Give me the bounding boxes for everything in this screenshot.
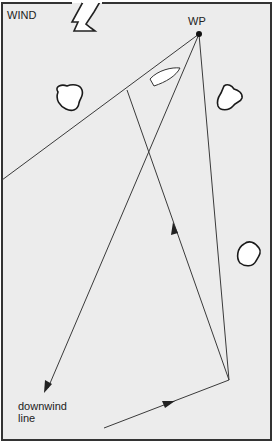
chart-background bbox=[2, 3, 271, 440]
downwind-line-label: downwind line bbox=[18, 400, 78, 424]
downwind-label-line2: line bbox=[18, 412, 78, 424]
waypoint-label: WP bbox=[188, 15, 206, 27]
downwind-label-line1: downwind bbox=[18, 400, 78, 412]
wind-label: WIND bbox=[7, 9, 36, 21]
navigation-diagram bbox=[0, 0, 274, 442]
waypoint-icon bbox=[196, 31, 202, 37]
